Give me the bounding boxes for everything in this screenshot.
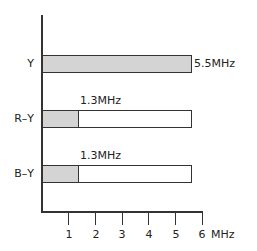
x-tick (68, 212, 69, 225)
bar-y (42, 55, 192, 73)
bandwidth-label-r-y: 1.3MHz (80, 94, 121, 107)
x-tick (175, 212, 176, 225)
bar-fill (43, 166, 78, 182)
row-label-b-y: B–Y (0, 167, 34, 180)
bar-fill (43, 111, 78, 127)
x-tick-label: 4 (142, 228, 156, 241)
bandwidth-label-b-y: 1.3MHz (80, 149, 121, 162)
x-tick (148, 212, 149, 225)
bandwidth-label-y: 5.5MHz (194, 57, 235, 70)
x-tick-label: 2 (89, 228, 103, 241)
x-axis-unit: MHz (211, 228, 235, 241)
x-tick (202, 212, 203, 225)
x-tick-label: 3 (115, 228, 129, 241)
bar-divider (78, 166, 79, 182)
x-tick-label: 5 (169, 228, 183, 241)
bar-divider (78, 111, 79, 127)
x-tick-label: 1 (62, 228, 76, 241)
bar-r-y (42, 110, 192, 128)
x-tick-label: 6 (195, 228, 209, 241)
row-label-y: Y (0, 57, 34, 70)
bar-fill (43, 56, 191, 72)
x-tick (122, 212, 123, 225)
bar-b-y (42, 165, 192, 183)
x-tick (95, 212, 96, 225)
row-label-r-y: R–Y (0, 112, 34, 125)
